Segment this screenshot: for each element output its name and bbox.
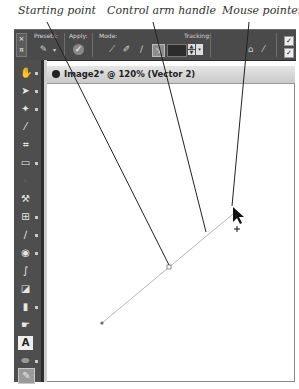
callout-line-control-arm <box>153 22 206 232</box>
mouse-pointer-icon <box>233 207 244 232</box>
annotation-overlay <box>0 0 299 389</box>
control-arm-handle[interactable] <box>167 265 171 269</box>
callout-line-starting-point <box>47 22 169 265</box>
start-point-node[interactable] <box>100 321 103 324</box>
callout-line-mouse-pointer <box>232 22 249 206</box>
